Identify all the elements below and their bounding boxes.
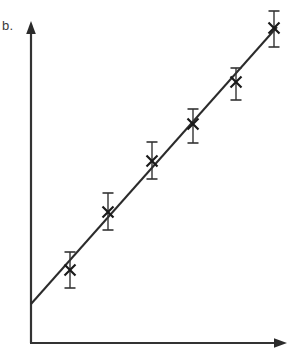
data-series-measurements [65, 11, 280, 288]
data-point-5 [231, 68, 242, 100]
data-point-1 [65, 252, 76, 288]
y-axis-arrowhead [26, 21, 36, 34]
x-axis-arrowhead [274, 338, 287, 348]
axes-group [26, 21, 287, 348]
scatter-plot-chart [0, 0, 292, 355]
data-point-6 [269, 11, 280, 47]
figure-panel: b. [0, 0, 292, 355]
